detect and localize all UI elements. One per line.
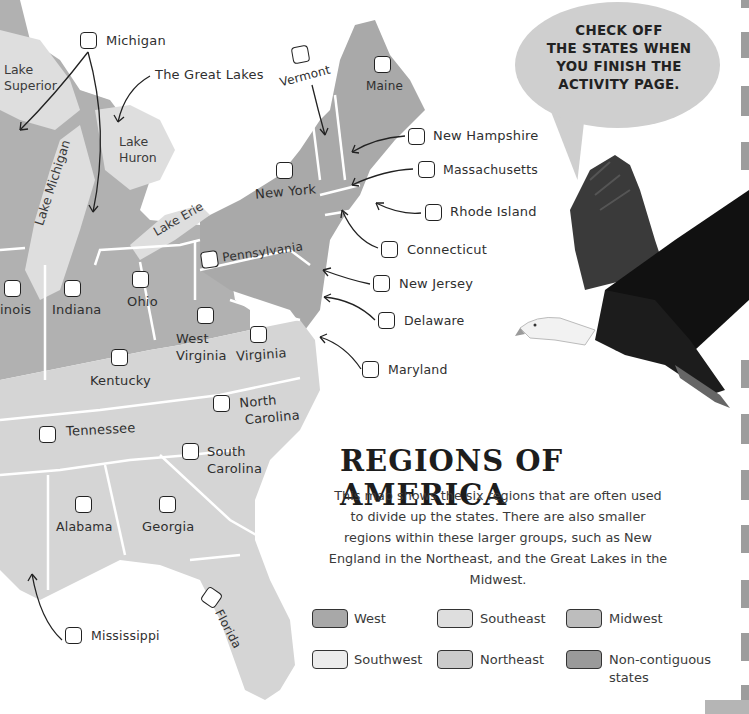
state-label-ohio: Ohio (127, 294, 158, 309)
great-lakes-label: The Great Lakes (155, 67, 264, 82)
lake-superior-line2: Superior (4, 78, 57, 94)
state-label-north-carolina: North Carolina (239, 389, 301, 428)
legend-label-southwest: Southwest (354, 651, 422, 669)
checkbox-tennessee[interactable] (39, 426, 56, 443)
legend-label-non-contiguous: Non-contiguous states (609, 651, 734, 687)
checkbox-maine[interactable] (374, 56, 391, 73)
legend-label-southeast: Southeast (480, 610, 546, 628)
edge-dash (741, 525, 749, 553)
state-label-mississippi: Mississippi (91, 628, 160, 643)
state-label-indiana: Indiana (52, 302, 102, 317)
checkbox-west-virginia[interactable] (197, 307, 214, 324)
state-label-connecticut: Connecticut (407, 242, 487, 257)
lake-superior-line1: Lake (4, 62, 57, 78)
checkbox-pennsylvania[interactable] (200, 250, 219, 269)
lake-huron-label: Lake Huron (119, 134, 157, 165)
checkbox-maryland[interactable] (362, 361, 379, 378)
state-label-michigan: Michigan (106, 33, 166, 48)
checkbox-illinois[interactable] (4, 280, 21, 297)
checkbox-massachusetts[interactable] (418, 161, 435, 178)
legend-swatch-west (312, 609, 348, 628)
state-label-maine: Maine (366, 79, 403, 93)
checkbox-north-carolina[interactable] (213, 395, 230, 412)
checkbox-delaware[interactable] (378, 312, 395, 329)
state-label-kentucky: Kentucky (90, 373, 151, 388)
bald-eagle-image (515, 150, 749, 410)
lake-huron-line1: Lake (119, 134, 157, 150)
state-label-delaware: Delaware (404, 313, 465, 328)
checkbox-georgia[interactable] (159, 496, 176, 513)
callout-line-2: THE STATES WHEN (530, 40, 708, 58)
edge-dash (741, 0, 749, 8)
lake-huron-line2: Huron (119, 150, 157, 166)
edge-dash (741, 86, 749, 116)
state-label-new-hampshire: New Hampshire (433, 128, 538, 143)
checkbox-rhode-island[interactable] (425, 204, 442, 221)
state-label-new-jersey: New Jersey (399, 276, 473, 291)
legend-label-west: West (354, 610, 386, 628)
speech-bubble-text: CHECK OFF THE STATES WHEN YOU FINISH THE… (530, 22, 708, 94)
checkbox-alabama[interactable] (75, 496, 92, 513)
regions-description: This map shows the six regions that are … (327, 485, 669, 590)
legend-swatch-northeast (437, 650, 473, 669)
state-label-south-carolina-line1: South (207, 443, 262, 460)
legend-swatch-non-contiguous (566, 650, 602, 669)
legend-swatch-midwest (566, 609, 602, 628)
page-corner-tab (705, 700, 749, 714)
edge-dash (741, 142, 749, 170)
state-label-maryland: Maryland (388, 362, 448, 377)
state-label-illinois: inois (0, 302, 31, 317)
state-label-alabama: Alabama (56, 519, 113, 534)
checkbox-virginia[interactable] (250, 326, 267, 343)
state-label-south-carolina-line2: Carolina (207, 460, 262, 477)
checkbox-new-hampshire[interactable] (408, 128, 425, 145)
edge-dash (741, 360, 749, 388)
checkbox-new-york[interactable] (276, 162, 293, 179)
lake-superior-label: Lake Superior (4, 62, 57, 93)
edge-dash (741, 633, 749, 661)
edge-dash (741, 580, 749, 608)
checkbox-connecticut[interactable] (381, 241, 398, 258)
state-label-west-virginia-line1: West (176, 330, 227, 347)
checkbox-vermont[interactable] (291, 45, 311, 65)
callout-line-1: CHECK OFF (530, 22, 708, 40)
edge-dash (741, 414, 749, 444)
state-label-south-carolina: South Carolina (207, 443, 262, 477)
state-label-west-virginia: West Virginia (176, 330, 227, 364)
edge-dash (741, 32, 749, 58)
legend-swatch-southwest (312, 650, 348, 669)
checkbox-new-jersey[interactable] (373, 275, 390, 292)
checkbox-michigan[interactable] (80, 32, 97, 49)
legend-label-midwest: Midwest (609, 610, 663, 628)
legend-label-northeast: Northeast (480, 651, 544, 669)
state-label-georgia: Georgia (142, 519, 194, 534)
state-label-west-virginia-line2: Virginia (176, 347, 227, 364)
checkbox-indiana[interactable] (64, 280, 81, 297)
checkbox-south-carolina[interactable] (182, 443, 199, 460)
checkbox-kentucky[interactable] (111, 349, 128, 366)
legend-swatch-southeast (437, 609, 473, 628)
callout-line-3: YOU FINISH THE (530, 58, 708, 76)
checkbox-ohio[interactable] (132, 271, 149, 288)
edge-dash (741, 470, 749, 500)
callout-line-4: ACTIVITY PAGE. (530, 76, 708, 94)
checkbox-mississippi[interactable] (65, 627, 82, 644)
